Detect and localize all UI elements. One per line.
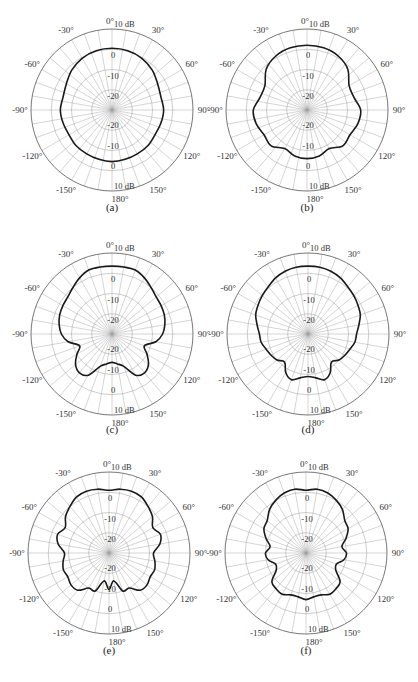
ring-tick-label-top: -10 [107, 71, 118, 81]
angle-tick-label: 30° [348, 249, 361, 259]
angle-tick-label: 120° [379, 375, 397, 385]
angle-tick-label: -60° [220, 283, 236, 293]
angle-tick-label: 120° [183, 375, 201, 385]
angle-tick-label: -60° [24, 59, 40, 69]
ring-tick-label-bottom: -20 [104, 563, 115, 573]
ring-tick-label-top: -20 [107, 315, 118, 325]
angle-tick-label: 150° [149, 409, 167, 419]
angle-tick-label: 90° [393, 105, 406, 115]
polar-plot-d: 0°30°60°90°120°150°180°-150°-120°-90°-60… [208, 240, 407, 436]
angle-tick-label: -60° [219, 59, 235, 69]
polar-figure: 0°30°60°90°120°150°180°-150°-120°-90°-60… [0, 0, 418, 682]
ring-tick-label-top: 0 [307, 274, 311, 284]
angle-tick-label: -90° [12, 105, 28, 115]
angle-tick-label: 120° [183, 151, 201, 161]
angle-tick-label: -60° [24, 283, 40, 293]
angle-tick-label: 150° [146, 628, 164, 638]
angle-tick-label: 150° [345, 409, 363, 419]
angle-tick-label: -90° [207, 105, 223, 115]
ring-tick-label-bottom: 0 [307, 385, 311, 395]
ring-tick-label-top: -10 [301, 514, 312, 524]
ring-tick-label-bottom: 0 [111, 385, 115, 395]
subfigure-caption: (e) [103, 644, 116, 657]
angle-tick-label: 60° [380, 59, 393, 69]
angle-tick-label: -60° [218, 502, 234, 512]
ring-tick-label-bottom: -10 [301, 584, 312, 594]
angle-tick-label: 120° [377, 594, 395, 604]
angle-tick-label: 150° [149, 185, 167, 195]
outer-ring-label-top: 10 dB [309, 19, 330, 29]
angle-tick-label: 30° [347, 25, 360, 35]
angle-tick-label: -150° [252, 409, 272, 419]
polar-plot-a: 0°30°60°90°120°150°180°-150°-120°-90°-60… [12, 16, 211, 214]
angle-tick-label: -150° [56, 409, 76, 419]
outer-ring-label-bottom: 10 dB [114, 181, 135, 191]
ring-tick-label-top: -10 [303, 295, 314, 305]
polar-plot-e: 0°30°60°90°120°150°180°-150°-120°-90°-60… [9, 459, 208, 657]
angle-tick-label: -30° [254, 249, 270, 259]
angle-tick-label: -30° [253, 25, 269, 35]
ring-tick-label-bottom: 0 [111, 161, 115, 171]
angle-tick-label: 90° [394, 329, 407, 339]
angle-tick-label: 60° [185, 59, 198, 69]
ring-tick-label-bottom: 0 [306, 161, 310, 171]
angle-tick-label: -120° [216, 594, 236, 604]
polar-plot-b: 0°30°60°90°120°150°180°-150°-120°-90°-60… [207, 16, 406, 214]
ring-tick-label-top: -20 [107, 91, 118, 101]
angle-tick-label: -120° [218, 375, 238, 385]
subfigure-caption: (d) [302, 423, 315, 436]
ring-tick-label-bottom: -10 [107, 365, 118, 375]
angle-tick-label: 120° [180, 594, 198, 604]
angle-tick-label: -150° [53, 628, 73, 638]
outer-ring-label-top: 10 dB [114, 19, 135, 29]
angle-tick-label: -90° [9, 548, 25, 558]
angle-tick-label: 30° [346, 468, 359, 478]
angle-tick-label: 120° [378, 151, 396, 161]
ring-tick-label-bottom: -20 [301, 563, 312, 573]
ring-tick-label-top: 0 [111, 50, 115, 60]
outer-ring-label-bottom: 10 dB [114, 405, 135, 415]
angle-tick-label: 30° [152, 249, 165, 259]
angle-tick-label: -30° [58, 249, 74, 259]
ring-tick-label-bottom: -20 [302, 120, 313, 130]
angle-tick-label: -120° [217, 151, 237, 161]
outer-ring-label-top: 10 dB [308, 462, 329, 472]
angle-tick-label: 150° [344, 185, 362, 195]
ring-tick-label-bottom: -20 [303, 344, 314, 354]
subfigure-caption: (c) [106, 423, 119, 436]
angle-tick-label: 30° [149, 468, 162, 478]
angle-tick-label: -30° [58, 25, 74, 35]
angle-tick-label: 90° [392, 548, 405, 558]
angle-tick-label: -30° [55, 468, 71, 478]
ring-tick-label-top: -20 [303, 315, 314, 325]
angle-tick-label: 60° [379, 502, 392, 512]
outer-ring-label-bottom: 10 dB [309, 181, 330, 191]
ring-tick-label-top: 0 [111, 274, 115, 284]
ring-tick-label-top: -10 [104, 514, 115, 524]
ring-tick-label-top: -10 [107, 295, 118, 305]
angle-tick-label: -120° [22, 375, 42, 385]
ring-tick-label-top: -20 [104, 534, 115, 544]
outer-ring-label-top: 10 dB [111, 462, 132, 472]
angle-tick-label: -90° [206, 548, 222, 558]
ring-tick-label-bottom: 0 [108, 604, 112, 614]
outer-ring-label-top: 10 dB [310, 243, 331, 253]
angle-tick-label: -120° [22, 151, 42, 161]
ring-tick-label-top: 0 [305, 493, 309, 503]
angle-tick-label: -90° [12, 329, 28, 339]
outer-ring-label-top: 10 dB [114, 243, 135, 253]
polar-plot-f: 0°30°60°90°120°150°180°-150°-120°-90°-60… [206, 459, 405, 657]
angle-tick-label: -60° [21, 502, 37, 512]
angle-tick-label: 60° [182, 502, 195, 512]
ring-tick-label-bottom: -20 [107, 344, 118, 354]
ring-tick-label-top: 0 [108, 493, 112, 503]
ring-tick-label-bottom: 0 [305, 604, 309, 614]
ring-tick-label-bottom: -10 [303, 365, 314, 375]
ring-tick-label-top: -20 [302, 91, 313, 101]
ring-tick-label-top: -10 [302, 71, 313, 81]
angle-tick-label: -150° [250, 628, 270, 638]
angle-tick-label: 150° [343, 628, 361, 638]
subfigure-caption: (f) [301, 644, 312, 657]
angle-tick-label: -120° [19, 594, 39, 604]
angle-tick-label: 30° [152, 25, 165, 35]
